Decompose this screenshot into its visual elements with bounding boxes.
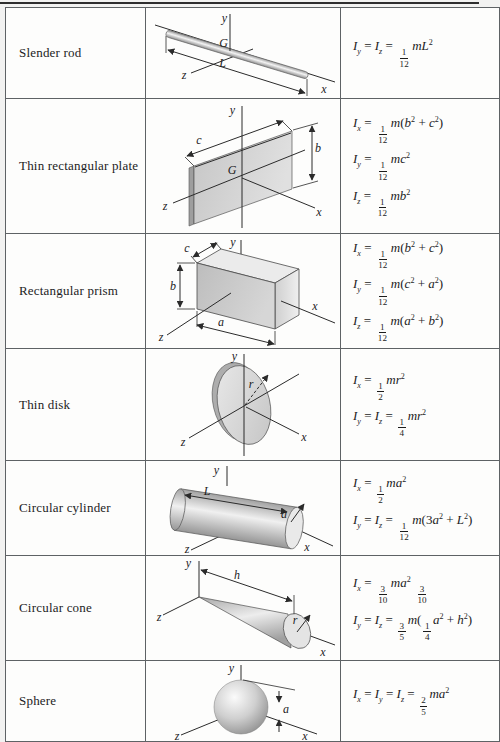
y-axis-label: y [229, 103, 236, 117]
thin-disk-figure: y r z x [147, 350, 339, 459]
z-axis-label: z [158, 330, 164, 344]
table-row: Circular cylinder [6, 461, 500, 556]
circular-cone-figure: y h r z x [147, 557, 339, 659]
z-axis-label: z [174, 729, 180, 741]
length-label: L [218, 56, 226, 70]
slender-rod-figure: y G L z x [147, 9, 339, 97]
sphere-shape [214, 680, 268, 734]
x-axis-label: x [320, 82, 327, 96]
inertia-formula: Iy = Iz = 112m(3a2 + L2) [353, 511, 499, 542]
length-label: a [218, 315, 224, 329]
z-axis-line [163, 597, 199, 615]
radius-label: r [249, 377, 254, 391]
plate-face [194, 131, 292, 224]
extension-tick [185, 157, 194, 166]
page-top-rule [0, 2, 479, 4]
y-axis-label: y [185, 557, 192, 570]
shape-name: Circular cone [6, 556, 146, 661]
sphere-figure: y a z x [147, 662, 339, 741]
extension-tick [191, 256, 197, 263]
x-axis-label: x [311, 299, 318, 313]
length-dimension-line [197, 325, 274, 344]
inertia-formula: Ix = 12mr2 [353, 371, 499, 402]
inertia-formula: Iz = 112m(a2 + b2) [353, 312, 499, 343]
formula-cell: Ix = 112m(b2 + c2) Iy = 112mc2 Iz = 112m… [341, 99, 500, 234]
z-axis-label: z [162, 199, 168, 213]
inertia-formula: Iy = 112m(c2 + a2) [353, 275, 499, 306]
inertia-formula: Ix = 12ma2 [353, 474, 499, 505]
inertia-formula: Ix = Iy = Iz = 25ma2 [353, 685, 499, 716]
radius-label: a [283, 702, 289, 716]
inertia-formula: Ix = 112m(b2 + c2) [353, 239, 499, 270]
x-axis-label: x [301, 729, 308, 741]
radius-label: a [281, 507, 287, 521]
depth-label: c [184, 241, 190, 255]
shape-figure-cell: y c b a z x [146, 234, 341, 349]
table-row: Circular cone [6, 556, 500, 661]
cone-body [199, 597, 291, 648]
inertia-formula: Iy = Iz = 14mr2 [353, 407, 499, 438]
shape-name: Thin disk [6, 349, 146, 461]
moments-of-inertia-table: Slender rod [5, 7, 500, 742]
table-row: Rectangular prism [6, 234, 500, 349]
shape-name: Sphere [6, 661, 146, 742]
shape-figure-cell: y h r z x [146, 556, 341, 661]
inertia-formula: Iz = 112mb2 [353, 187, 499, 218]
table-row: Thin rectangular plate [6, 99, 500, 234]
y-axis-label: y [221, 11, 228, 25]
shape-name: Thin rectangular plate [6, 99, 146, 234]
x-axis-label: x [315, 205, 322, 219]
height-label: b [170, 279, 176, 293]
inertia-formula: Iy = Iz = 35m(14a2 + h2) [353, 611, 499, 642]
x-axis-label: x [300, 430, 307, 444]
circular-cylinder-figure: y L a z x [147, 462, 339, 554]
z-axis-label: z [156, 610, 162, 624]
rectangular-prism-figure: y c b a z x [147, 237, 339, 346]
formula-cell: Ix = 12ma2 Iy = Iz = 112m(3a2 + L2) [341, 461, 500, 556]
shape-name: Circular cylinder [6, 461, 146, 556]
extension-tick [215, 242, 221, 249]
formula-cell: Ix = 310ma2 310 Iy = Iz = 35m(14a2 + h2) [341, 556, 500, 661]
z-axis-label: z [184, 542, 190, 554]
shape-figure-cell: y L a z x [146, 461, 341, 556]
shape-name: Slender rod [6, 8, 146, 99]
formula-cell: Iy = Iz = 112mL2 [341, 8, 500, 99]
shape-figure-cell: y r z x [146, 349, 341, 461]
centroid-label: G [219, 36, 228, 50]
y-axis-label: y [231, 350, 238, 363]
formula-cell: Ix = 112m(b2 + c2) Iy = 112m(c2 + a2) Iz… [341, 234, 500, 349]
z-axis-label: z [181, 68, 187, 82]
y-axis-label: y [213, 463, 220, 477]
centroid-label: G [228, 163, 237, 177]
width-label: c [196, 133, 202, 147]
extension-tick [293, 181, 318, 188]
formula-cell: Ix = 12mr2 Iy = Iz = 14mr2 [341, 349, 500, 461]
table-row: Thin disk [6, 349, 500, 461]
radius-label: r [293, 613, 298, 627]
y-axis-label: y [228, 662, 235, 675]
inertia-formula: Iy = Iz = 112mL2 [353, 37, 499, 68]
extension-tick [293, 123, 318, 130]
inertia-formula: Ix = 112m(b2 + c2) [353, 114, 499, 145]
table-row: Sphere [6, 661, 500, 742]
thin-plate-figure: y c b G z x [147, 100, 339, 232]
shape-name: Rectangular prism [6, 234, 146, 349]
formula-cell: Ix = Iy = Iz = 25ma2 [341, 661, 500, 742]
shape-figure-cell: y c b G z x [146, 99, 341, 234]
shape-figure-cell: y G L z x [146, 8, 341, 99]
height-dimension-line [201, 570, 292, 601]
table-row: Slender rod [6, 8, 500, 99]
z-axis-label: z [180, 435, 186, 449]
inertia-formula: Iy = 112mc2 [353, 150, 499, 181]
shape-figure-cell: y a z x [146, 661, 341, 742]
inertia-formula: Ix = 310ma2 310 [353, 574, 499, 605]
x-axis-label: x [319, 645, 326, 659]
y-axis-label: y [229, 237, 236, 249]
x-axis-label: x [303, 540, 310, 554]
textbook-page: Slender rod [0, 2, 479, 742]
height-label: h [234, 568, 240, 582]
height-label: b [315, 141, 321, 155]
extension-tick [283, 122, 292, 131]
length-label: L [203, 484, 211, 498]
